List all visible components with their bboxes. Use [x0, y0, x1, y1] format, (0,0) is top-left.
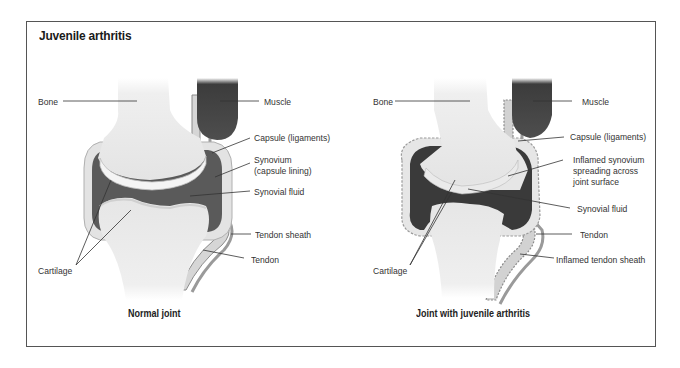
label-capsule-normal: Capsule (ligaments)	[254, 132, 330, 143]
label-muscle-arthritis: Muscle	[582, 96, 609, 107]
label-muscle-normal: Muscle	[264, 96, 291, 107]
label-tendon-sheath-normal: Tendon sheath	[255, 229, 311, 240]
label-tendon-sheath-arthritis: Inflamed tendon sheath	[556, 254, 645, 265]
caption-arthritis-joint: Joint with juvenile arthritis	[416, 308, 530, 319]
label-cartilage-arthritis: Cartilage	[373, 265, 407, 276]
label-tendon-arthritis: Tendon	[580, 229, 608, 240]
label-synovium-normal: Synovium	[254, 154, 292, 165]
label-cartilage-normal: Cartilage	[38, 265, 72, 276]
label-bone-normal: Bone	[38, 96, 58, 107]
label-capsule-arthritis: Capsule (ligaments)	[570, 131, 646, 142]
label-synovial-fluid-normal: Synovial fluid	[254, 186, 304, 197]
label-synovium-normal-2: (capsule lining)	[254, 165, 312, 176]
label-tendon-normal: Tendon	[251, 254, 279, 265]
label-synovium-arthritis: Inflamed synovium	[573, 154, 644, 165]
label-synovium-arthritis-2: spreading across	[573, 165, 638, 176]
label-synovium-arthritis-3: joint surface	[573, 176, 619, 187]
label-bone-arthritis: Bone	[373, 96, 393, 107]
label-synovial-fluid-arthritis: Synovial fluid	[577, 203, 627, 214]
caption-normal-joint: Normal joint	[128, 308, 181, 319]
